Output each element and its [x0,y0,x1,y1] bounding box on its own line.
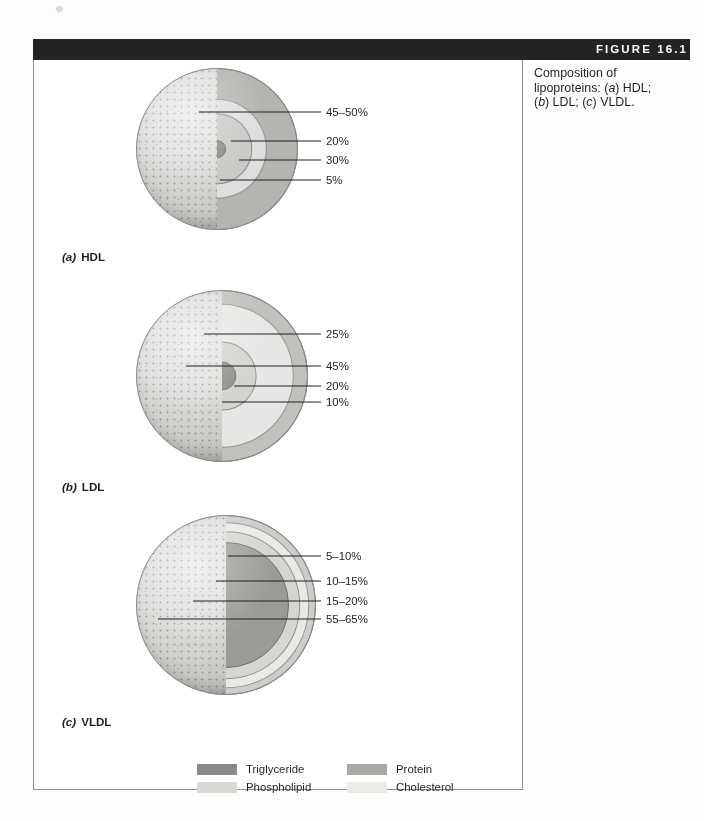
legend-item-triglyceride: Triglyceride [197,763,347,775]
ldl-panel-index: (b) [62,480,77,493]
legend-item-protein: Protein [347,763,497,775]
legend-item-cholesterol: Cholesterol [347,781,497,793]
ldl-label-cholesterol: 20% [326,381,349,392]
vldl-particle-diagram: 5–10% 10–15% 15–20% 55–65% [136,515,316,695]
legend-row-2: Phospholipid Cholesterol [197,778,497,796]
composition-legend: Triglyceride Protein Phospholipid Choles… [197,760,497,796]
hdl-panel-index: (a) [62,250,76,263]
panel-hdl: 45–50% 20% 30% 5% (a)HDL [34,60,524,292]
ldl-panel-caption: (b)LDL [62,480,104,493]
vldl-label-cholesterol: 15–20% [326,596,368,607]
ldl-label-protein: 25% [326,329,349,340]
caption-marker-b: b [538,95,545,109]
vldl-label-triglyceride: 55–65% [326,614,368,625]
ldl-panel-name: LDL [82,480,105,493]
legend-label-cholesterol: Cholesterol [396,781,454,793]
panel-vldl: 5–10% 10–15% 15–20% 55–65% (c)VLDL [34,507,524,752]
caption-line-3-middle: ) LDL; ( [545,95,586,109]
vldl-label-phospholipid: 10–15% [326,576,368,587]
legend-label-triglyceride: Triglyceride [246,763,304,775]
hdl-panel-caption: (a)HDL [62,250,105,263]
caption-line-1: Composition of [534,66,617,80]
legend-swatch-phospholipid [197,782,237,793]
legend-label-protein: Protein [396,763,432,775]
ldl-label-triglyceride: 10% [326,397,349,408]
figure-header-bar [33,39,690,60]
hdl-label-triglyceride: 5% [326,175,342,186]
hdl-label-cholesterol: 30% [326,155,349,166]
hdl-particle-diagram: 45–50% 20% 30% 5% [136,68,298,230]
ldl-particle-diagram: 25% 45% 20% 10% [136,290,308,462]
vldl-label-protein: 5–10% [326,551,361,562]
hdl-panel-name: HDL [81,250,105,263]
legend-swatch-protein [347,764,387,775]
ldl-label-phospholipid: 45% [326,361,349,372]
vldl-panel-name: VLDL [81,715,111,728]
panel-ldl: 25% 45% 20% 10% (b)LDL [34,282,524,514]
legend-swatch-cholesterol [347,782,387,793]
vldl-panel-caption: (c)VLDL [62,715,111,728]
figure-plate: 45–50% 20% 30% 5% (a)HDL [33,60,523,790]
legend-swatch-triglyceride [197,764,237,775]
hdl-label-protein: 45–50% [326,107,368,118]
figure-caption: Composition of lipoproteins: (a) HDL; (b… [534,66,692,110]
caption-line-2-middle: ) HDL; [615,81,651,95]
vldl-panel-index: (c) [62,715,76,728]
caption-line-2-prefix: lipoproteins: ( [534,81,608,95]
figure-number-label: FIGURE 16.1 [596,39,696,60]
scan-artifact-speck [55,5,64,13]
caption-line-3-end: ) VLDL. [593,95,635,109]
legend-item-phospholipid: Phospholipid [197,781,347,793]
hdl-label-phospholipid: 20% [326,136,349,147]
legend-row-1: Triglyceride Protein [197,760,497,778]
legend-label-phospholipid: Phospholipid [246,781,311,793]
vldl-leader-lines [136,515,376,705]
